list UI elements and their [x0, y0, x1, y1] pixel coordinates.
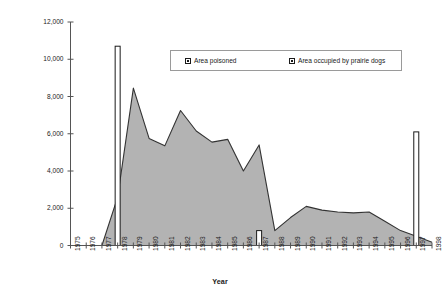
- x-tick-label: 1981: [168, 236, 175, 251]
- x-tick-label: 1983: [199, 236, 206, 251]
- y-tick-label: 6,000: [20, 130, 64, 137]
- x-tick-label: 1990: [309, 236, 316, 251]
- y-tick-label: 4,000: [20, 167, 64, 174]
- x-tick-label: 1989: [294, 236, 301, 251]
- y-tick-label: 0: [20, 242, 64, 249]
- area-series-fill: [71, 88, 433, 245]
- y-tick-label: 2,000: [20, 204, 64, 211]
- x-tick-label: 1977: [105, 236, 112, 251]
- x-tick-label: 1982: [184, 236, 191, 251]
- x-tick-label: 1998: [435, 236, 442, 251]
- legend-swatch-icon-poisoned: [185, 58, 191, 64]
- x-axis-title: Year: [0, 277, 440, 286]
- x-tick-label: 1984: [215, 236, 222, 251]
- x-tick-label: 1997: [419, 236, 426, 251]
- legend-item-area-poisoned: Area poisoned: [185, 56, 237, 66]
- x-tick-label: 1993: [356, 236, 363, 251]
- area-series-group: [71, 88, 433, 245]
- x-tick-label: 1994: [372, 236, 379, 251]
- y-tick-label: 12,000: [20, 18, 64, 25]
- chart-legend: Area poisoned Area occupied by prairie d…: [170, 50, 402, 71]
- legend-label-poisoned: Area poisoned: [194, 57, 237, 65]
- x-tick-label: 1992: [341, 236, 348, 251]
- y-tick-label: 8,000: [20, 93, 64, 100]
- legend-label-occupied: Area occupied by prairie dogs: [298, 57, 385, 65]
- x-tick-label: 1980: [152, 236, 159, 251]
- y-tick-label: 10,000: [20, 55, 64, 62]
- bar-area-poisoned-1978: [115, 46, 120, 245]
- bar-area-poisoned-1997: [414, 132, 419, 246]
- legend-swatch-icon-occupied: [289, 58, 295, 64]
- y-axis-title: Area occupied by prairie dogs (hectares): [2, 0, 16, 32]
- x-tick-label: 1986: [246, 236, 253, 251]
- x-tick-label: 1976: [89, 236, 96, 251]
- x-tick-label: 1988: [278, 236, 285, 251]
- x-tick-label: 1985: [231, 236, 238, 251]
- x-tick-label: 1987: [262, 236, 269, 251]
- x-tick-label: 1975: [74, 236, 81, 251]
- x-tick-label: 1991: [325, 236, 332, 251]
- x-tick-label: 1995: [388, 236, 395, 251]
- legend-item-area-occupied: Area occupied by prairie dogs: [289, 56, 385, 66]
- x-tick-label: 1978: [121, 236, 128, 251]
- x-tick-label: 1979: [136, 236, 143, 251]
- x-tick-label: 1996: [404, 236, 411, 251]
